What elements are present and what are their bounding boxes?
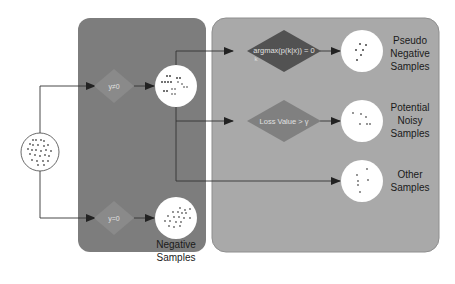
flow-diagram: y≠0 y=0 Negative Samples arg xyxy=(0,0,455,284)
gate-nonzero-label: y≠0 xyxy=(108,83,119,91)
other-samples-circle xyxy=(341,160,383,202)
loss-label: Loss Value > γ xyxy=(260,117,309,126)
svg-text:Samples: Samples xyxy=(391,128,430,139)
input-samples-circle xyxy=(21,133,59,171)
nonzero-samples-circle xyxy=(155,65,197,107)
gate-zero-label: y=0 xyxy=(108,215,120,223)
negative-samples-label-line1: Negative xyxy=(156,239,196,250)
negative-samples-label-line2: Samples xyxy=(157,252,196,263)
pseudo-negative-label: Pseudo Negative Samples xyxy=(390,35,430,72)
pseudo-negative-circle xyxy=(341,30,383,72)
svg-text:Pseudo: Pseudo xyxy=(393,35,427,46)
svg-text:Samples: Samples xyxy=(391,61,430,72)
svg-text:Samples: Samples xyxy=(391,182,430,193)
negative-samples-circle xyxy=(155,197,197,239)
potential-noisy-circle xyxy=(341,100,383,142)
svg-text:Potential: Potential xyxy=(391,102,430,113)
svg-text:Negative: Negative xyxy=(390,48,430,59)
svg-text:Other: Other xyxy=(397,169,423,180)
argmax-label: argmax(p(k|x)) = 0 xyxy=(253,46,314,55)
svg-text:Noisy: Noisy xyxy=(397,115,422,126)
